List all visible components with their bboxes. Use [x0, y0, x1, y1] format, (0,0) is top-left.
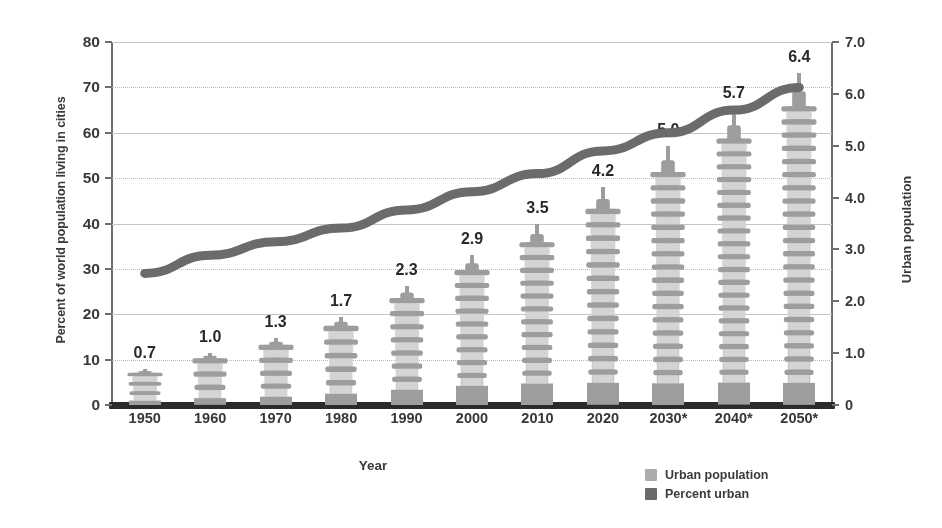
bar-value-label: 2.9	[461, 230, 483, 248]
x-tick-label: 1970	[259, 410, 291, 426]
bar: 2.3	[387, 286, 427, 405]
left-tick-label: 10	[83, 350, 100, 368]
tick-mark	[105, 404, 112, 406]
bar: 4.2	[583, 187, 623, 405]
tick-mark	[832, 41, 839, 43]
x-tick-label: 1990	[390, 410, 422, 426]
tick-mark	[105, 41, 112, 43]
tick-mark	[105, 132, 112, 134]
right-axis-title: Urban population	[899, 110, 914, 350]
tick-mark	[105, 86, 112, 88]
left-tick-label: 60	[83, 123, 100, 141]
left-tick-label: 80	[83, 33, 100, 51]
right-tick-label: 5.0	[845, 137, 865, 153]
right-tick-label: 7.0	[845, 34, 865, 50]
bar-value-label: 4.2	[592, 162, 614, 180]
bar-value-label: 1.7	[330, 292, 352, 310]
bar: 0.7	[125, 369, 165, 405]
left-axis-title: Percent of world population living in ci…	[54, 55, 68, 385]
tick-mark	[832, 404, 839, 406]
left-tick-label: 70	[83, 78, 100, 96]
right-tick-label: 1.0	[845, 345, 865, 361]
tick-mark	[105, 177, 112, 179]
bar: 6.4	[779, 73, 819, 405]
x-tick-label: 1960	[194, 410, 226, 426]
legend-item: Percent urban	[645, 487, 768, 501]
gridline	[112, 42, 832, 43]
chart-canvas: Percent of world population living in ci…	[0, 0, 942, 528]
x-tick-label: 2050*	[780, 410, 818, 426]
bar-value-label: 1.3	[265, 313, 287, 331]
bar: 5.0	[648, 146, 688, 405]
tick-mark	[832, 248, 839, 250]
bar-value-label: 1.0	[199, 328, 221, 346]
bar: 5.7	[714, 109, 754, 405]
x-tick-label: 2040*	[715, 410, 753, 426]
x-axis-title: Year	[0, 458, 746, 473]
left-tick-label: 20	[83, 305, 100, 323]
bar-value-label: 5.7	[723, 84, 745, 102]
tick-mark	[832, 93, 839, 95]
bar-value-label: 0.7	[134, 344, 156, 362]
right-tick-label: 6.0	[845, 86, 865, 102]
x-tick-label: 2020	[587, 410, 619, 426]
bar: 2.9	[452, 255, 492, 405]
legend-item: Urban population	[645, 468, 768, 482]
bar: 3.5	[517, 224, 557, 406]
bar-value-label: 3.5	[526, 199, 548, 217]
chart-legend: Urban populationPercent urban	[645, 468, 768, 506]
x-tick-label: 1950	[129, 410, 161, 426]
x-tick-label: 2030*	[649, 410, 687, 426]
x-tick-label: 2000	[456, 410, 488, 426]
right-tick-label: 2.0	[845, 293, 865, 309]
bar: 1.3	[256, 338, 296, 405]
bar: 1.7	[321, 317, 361, 405]
bar-value-label: 5.0	[657, 121, 679, 139]
tick-mark	[105, 268, 112, 270]
tick-mark	[105, 223, 112, 225]
legend-label: Percent urban	[665, 487, 749, 501]
plot-area: 80706050403020100 7.06.05.04.03.02.01.00…	[112, 42, 832, 405]
x-tick-label: 1980	[325, 410, 357, 426]
bar: 1.0	[190, 353, 230, 405]
legend-swatch-icon	[645, 488, 657, 500]
bar-value-label: 2.3	[395, 261, 417, 279]
right-tick-label: 0	[845, 397, 853, 413]
tick-mark	[832, 145, 839, 147]
left-tick-label: 30	[83, 260, 100, 278]
x-tick-label: 2010	[521, 410, 553, 426]
tick-mark	[832, 300, 839, 302]
right-tick-label: 3.0	[845, 241, 865, 257]
bar-value-label: 6.4	[788, 48, 810, 66]
tick-mark	[105, 359, 112, 361]
left-tick-label: 50	[83, 169, 100, 187]
right-tick-label: 4.0	[845, 189, 865, 205]
left-tick-label: 0	[91, 396, 100, 414]
legend-label: Urban population	[665, 468, 768, 482]
tick-mark	[832, 197, 839, 199]
legend-swatch-icon	[645, 469, 657, 481]
tick-mark	[832, 352, 839, 354]
left-tick-label: 40	[83, 214, 100, 232]
tick-mark	[105, 313, 112, 315]
